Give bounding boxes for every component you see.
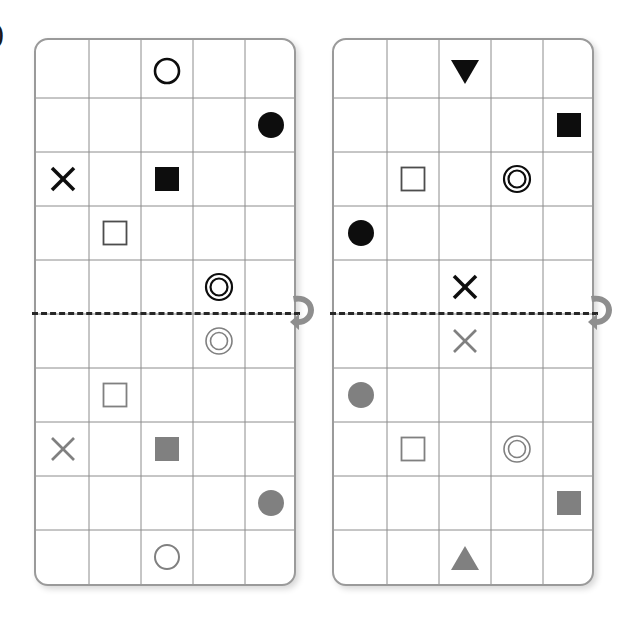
square-outline-icon [402,438,425,461]
mirror-axis-line [330,312,598,315]
double-circle-icon [206,328,232,354]
mirror-axis-line [32,312,300,315]
cross-icon [454,276,476,298]
cross-icon [52,168,74,190]
triangle-down-icon [451,60,479,84]
square-filled-icon [155,437,179,461]
figure-label: ) [0,18,4,48]
square-filled-icon [557,113,581,137]
square-outline-icon [402,168,425,191]
rotate-arrow-icon [290,290,316,334]
square-outline-icon [104,222,127,245]
circle-filled-icon [348,382,374,408]
circle-filled-icon [348,220,374,246]
circle-outline-icon [155,59,179,83]
figure-canvas: ) [0,0,623,621]
circle-filled-icon [258,112,284,138]
square-filled-icon [155,167,179,191]
double-circle-icon [504,436,530,462]
cross-icon [52,438,74,460]
double-circle-icon [206,274,232,300]
square-outline-icon [104,384,127,407]
square-filled-icon [557,491,581,515]
circle-filled-icon [258,490,284,516]
double-circle-icon [504,166,530,192]
rotate-arrow-icon [588,290,614,334]
cross-icon [454,330,476,352]
triangle-up-icon [451,546,479,570]
circle-outline-icon [155,545,179,569]
